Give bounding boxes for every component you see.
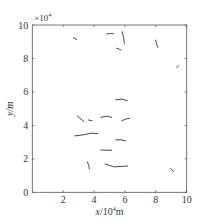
track-segment	[101, 116, 112, 117]
x-tick-label: 2	[61, 194, 66, 205]
x-label-unit: m	[116, 206, 124, 217]
x-tick-label: 4	[92, 194, 97, 205]
track-segment	[177, 66, 179, 68]
track-segment	[88, 120, 92, 121]
track-segment	[171, 168, 174, 171]
y-multiplier-exponent: 4	[48, 12, 51, 18]
y-tick-label: 6	[23, 86, 28, 97]
track-segment	[105, 164, 128, 167]
track-segment	[75, 133, 98, 136]
track-segment	[87, 162, 89, 169]
y-tick-label: 4	[23, 120, 28, 131]
track-segment	[122, 118, 129, 120]
series-tracks	[73, 32, 178, 172]
track-segment	[116, 140, 126, 141]
x-axis-label: x/104m	[94, 206, 123, 217]
track-segment	[77, 116, 84, 122]
y-tick-label: 8	[23, 53, 28, 64]
track-segment	[107, 34, 114, 35]
x-tick-label: 6	[122, 194, 127, 205]
track-plot: 246810 0246810 ×104 x/104m y/m	[0, 0, 201, 223]
axes-box	[32, 25, 186, 192]
track-segment	[122, 32, 124, 44]
y-tick-label: 2	[23, 153, 28, 164]
track-segment	[117, 48, 122, 50]
y-axis-multiplier: ×104	[34, 12, 51, 23]
x-label-prefix: /10	[100, 206, 113, 217]
y-multiplier-base: ×10	[34, 13, 49, 23]
x-tick-label: 8	[153, 194, 158, 205]
track-segment	[156, 40, 158, 47]
track-segment	[73, 38, 76, 40]
x-axis-ticks: 246810	[61, 25, 192, 205]
track-segment	[116, 99, 128, 101]
y-tick-label: 10	[18, 20, 28, 31]
x-tick-label: 10	[182, 194, 192, 205]
y-axis-label: y/m	[4, 101, 15, 116]
y-tick-label: 0	[23, 187, 28, 198]
y-axis-ticks: 0246810	[18, 20, 186, 198]
